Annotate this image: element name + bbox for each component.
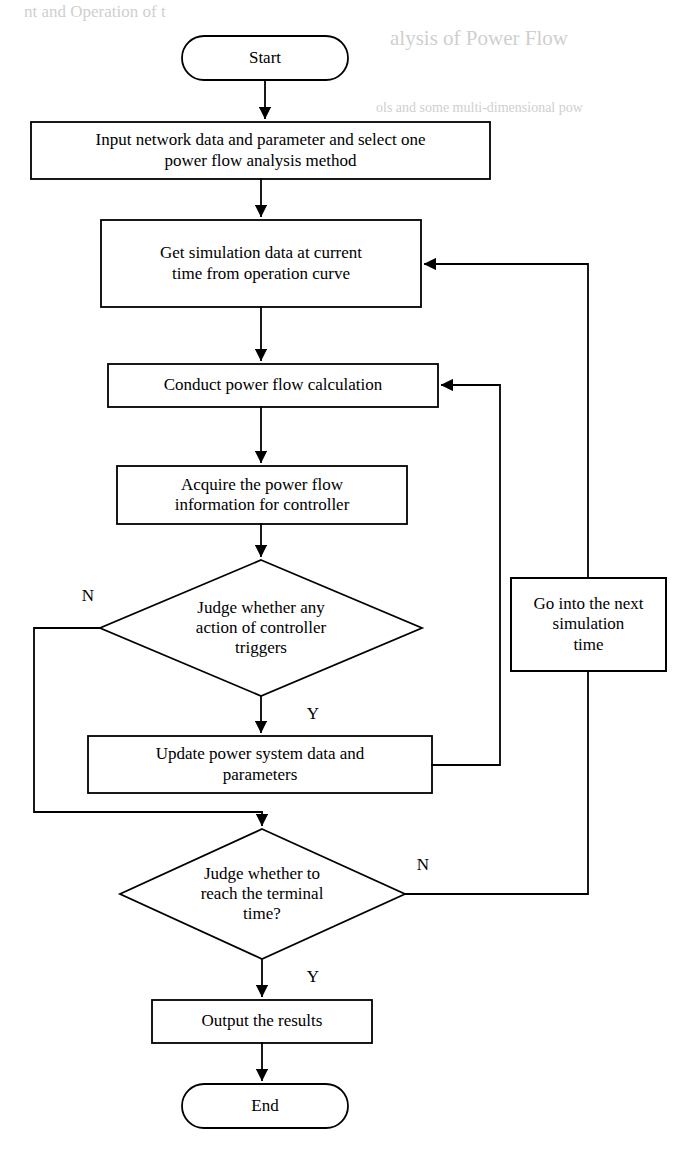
- node-go-next-simulation-time-shape-overlay: [511, 578, 666, 671]
- node-input-data-shape: [31, 122, 490, 179]
- node-output-results-shape: [152, 1000, 372, 1043]
- node-update-power-system-shape: [88, 736, 432, 793]
- node-acquire-power-flow-info-shape: [117, 466, 407, 524]
- edge-update-to-conduct-loop: [432, 385, 500, 765]
- node-start-shape: [182, 36, 348, 80]
- flowchart-canvas: [0, 0, 696, 1156]
- flowchart-page: nt and Operation of t alysis of Power Fl…: [0, 0, 696, 1156]
- node-judge-terminal-time-shape: [120, 829, 405, 959]
- node-conduct-power-flow-shape: [108, 364, 438, 407]
- edge-judge-controller-no-to-judge-terminal: [34, 628, 262, 825]
- node-end-shape: [182, 1084, 348, 1128]
- node-get-simulation-data-shape: [101, 220, 421, 307]
- node-judge-controller-action-shape: [100, 560, 422, 696]
